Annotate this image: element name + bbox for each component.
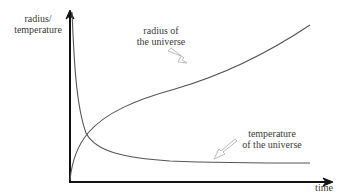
radius-pointer-arrow-icon: [168, 48, 187, 63]
radius-label-line2: the universe: [126, 36, 196, 47]
radius-curve-label: radius of the universe: [126, 25, 196, 47]
radius-curve: [70, 25, 310, 180]
y-axis-label-line2: temperature: [14, 24, 62, 35]
radius-label-line1: radius of: [126, 25, 196, 36]
y-axis-label-line1: radius/: [14, 13, 62, 24]
y-axis-label: radius/ temperature: [14, 13, 62, 35]
temperature-label-line2: of the universe: [237, 139, 307, 150]
temperature-curve-label: temperature of the universe: [237, 128, 307, 150]
temperature-pointer-arrow-icon: [214, 139, 237, 159]
temperature-label-line1: temperature: [237, 128, 307, 139]
x-axis-label: time: [312, 182, 336, 193]
